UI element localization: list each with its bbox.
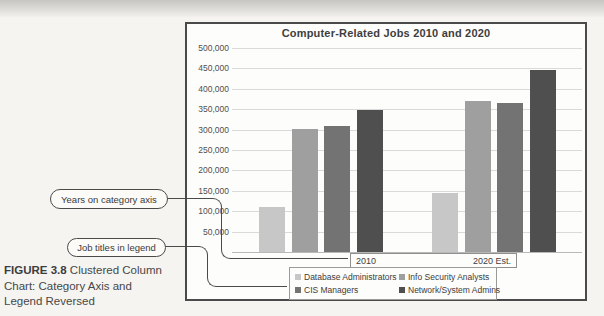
gridline: [232, 48, 582, 49]
legend-callout: Job titles in legend: [67, 238, 166, 257]
category-label-2020-est: 2020 Est.: [473, 256, 511, 266]
page: Computer-Related Jobs 2010 and 2020 500,…: [0, 0, 604, 316]
legend-swatch-icon: [295, 287, 301, 293]
figure-caption: FIGURE 3.8 Clustered Column Chart: Categ…: [4, 263, 186, 310]
years-callout-line: [221, 229, 349, 259]
bar-network-system-admins-0: [357, 110, 383, 252]
bar-database-administrators-1: [432, 193, 458, 252]
category-axis-labels: 2010 2020 Est.: [350, 253, 517, 268]
y-axis-tick-label: 450,000: [187, 63, 229, 73]
years-callout-label: Years on category axis: [61, 194, 157, 205]
y-axis-tick-label: 150,000: [187, 185, 229, 195]
legend-item: Info Security Analysts: [399, 272, 499, 282]
caption-line: Chart: Category Axis and: [4, 279, 186, 295]
legend-item: Network/System Admins: [399, 285, 499, 295]
bar-network-system-admins-1: [530, 70, 556, 252]
legend-swatch-icon: [399, 287, 405, 293]
chart-figure: Computer-Related Jobs 2010 and 2020 500,…: [185, 22, 587, 301]
category-label-2010: 2010: [356, 256, 376, 266]
legend-item: Database Administrators: [295, 272, 399, 282]
scan-edge-shadow: [0, 0, 604, 18]
caption-line: Legend Reversed: [4, 294, 186, 310]
figure-number: FIGURE 3.8: [4, 264, 67, 276]
chart-legend: Database AdministratorsInfo Security Ana…: [289, 267, 497, 300]
legend-callout-line: [207, 267, 288, 287]
y-axis-tick-label: 250,000: [187, 145, 229, 155]
y-axis-tick-label: 400,000: [187, 83, 229, 93]
legend-callout-label: Job titles in legend: [77, 242, 156, 253]
bar-cis-managers-1: [497, 103, 523, 252]
y-axis-tick-label: 200,000: [187, 165, 229, 175]
y-axis-tick-label: 500,000: [187, 43, 229, 53]
y-axis-tick-label: 350,000: [187, 104, 229, 114]
legend-item: CIS Managers: [295, 285, 399, 295]
legend-label: CIS Managers: [304, 285, 358, 295]
y-axis-tick-label: 300,000: [187, 124, 229, 134]
years-callout: Years on category axis: [50, 189, 168, 209]
bar-info-security-analysts-1: [465, 101, 491, 252]
legend-swatch-icon: [399, 274, 405, 280]
legend-label: Info Security Analysts: [408, 272, 489, 282]
caption-line: FIGURE 3.8 Clustered Column: [4, 263, 186, 279]
legend-swatch-icon: [295, 274, 301, 280]
legend-label: Network/System Admins: [408, 285, 500, 295]
gridline: [232, 68, 582, 69]
legend-label: Database Administrators: [304, 272, 397, 282]
years-callout-line: [168, 198, 222, 229]
